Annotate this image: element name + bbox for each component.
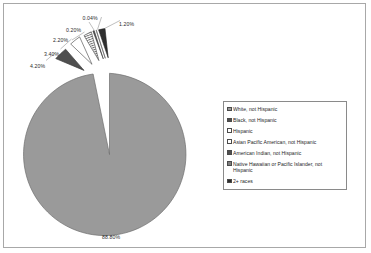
legend-item-black-not-hispanic[interactable]: Black, not Hispanic [227,117,343,124]
pie-label-native-hawaiian: 0.04% [83,16,98,21]
legend-label-two-plus-races: 2+ races [233,178,253,185]
legend-label-american-indian: American Indian, not Hispanic [233,150,301,157]
swatch-asian-pacific-american-icon [227,139,232,144]
chart-legend: White, not Hispanic Black, not Hispanic … [223,101,347,190]
pie-label-asian-pacific-american: 2.20% [53,38,68,43]
pie-label-american-indian: 0.20% [66,28,81,33]
legend-label-native-hawaiian: Native Hawaiian or Pacific Islander, not… [233,161,343,174]
legend-item-two-plus-races[interactable]: 2+ races [227,178,343,185]
legend-label-asian-pacific-american: Asian Pacific American, not Hispanic [233,139,316,146]
swatch-two-plus-races-icon [227,179,232,184]
swatch-hispanic-icon [227,128,232,133]
swatch-american-indian-icon [227,150,232,155]
legend-item-american-indian[interactable]: American Indian, not Hispanic [227,150,343,157]
legend-item-native-hawaiian[interactable]: Native Hawaiian or Pacific Islander, not… [227,161,343,174]
swatch-native-hawaiian-icon [227,161,232,166]
legend-item-white-not-hispanic[interactable]: White, not Hispanic [227,106,343,113]
pie-label-black-not-hispanic: 4.20% [30,64,45,69]
legend-item-asian-pacific-american[interactable]: Asian Pacific American, not Hispanic [227,139,343,146]
pie-label-white-not-hispanic: 88.80% [102,235,120,240]
pie-chart-graphic [8,8,223,245]
chart-frame: 4.20% 3.40% 2.20% 0.20% 0.04% 1.20% 88.8… [3,3,366,248]
pie-label-hispanic: 3.40% [44,52,59,57]
swatch-black-not-hispanic-icon [227,118,232,123]
legend-label-black-not-hispanic: Black, not Hispanic [233,117,277,124]
pie-label-two-plus-races: 1.20% [119,22,134,27]
pie-chart-plot-area: 4.20% 3.40% 2.20% 0.20% 0.04% 1.20% 88.8… [4,4,367,249]
legend-label-white-not-hispanic: White, not Hispanic [233,106,277,113]
swatch-white-not-hispanic-icon [227,107,232,112]
pie-slice-white-not-hispanic [24,73,186,235]
legend-label-hispanic: Hispanic [233,128,253,135]
legend-item-hispanic[interactable]: Hispanic [227,128,343,135]
